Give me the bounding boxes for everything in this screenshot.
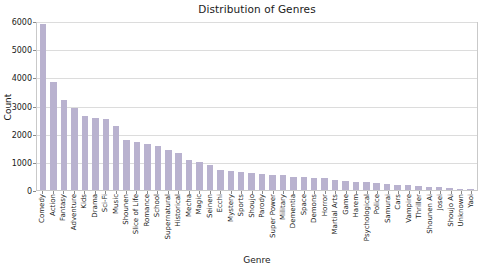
- bar: [426, 187, 432, 190]
- x-tick-slot: Music: [110, 191, 120, 253]
- bar: [353, 182, 359, 190]
- x-tick-label: Shoujo Ai: [447, 194, 454, 227]
- x-tick-label: Horror: [321, 194, 328, 216]
- bar: [134, 142, 140, 190]
- bar-slot: [319, 23, 329, 190]
- x-tick-slot: Comedy: [37, 191, 47, 253]
- x-tick-label: Historical: [175, 194, 182, 227]
- bar: [436, 187, 442, 190]
- x-tick-slot: Military: [278, 191, 288, 253]
- x-tick-label: Harem: [353, 194, 360, 217]
- bar: [165, 150, 171, 190]
- y-tick-label: 4000: [12, 74, 32, 83]
- x-tick-label: Shoujo: [248, 194, 255, 218]
- x-tick-slot: Horror: [320, 191, 330, 253]
- bar-slot: [351, 23, 361, 190]
- bar: [405, 185, 411, 190]
- x-tick-slot: Action: [47, 191, 57, 253]
- x-tick-group: ComedyActionFantasyAdventureKidsDramaSci…: [36, 191, 478, 253]
- bar-slot: [361, 23, 371, 190]
- x-tick-slot: School: [152, 191, 162, 253]
- bar-slot: [299, 23, 309, 190]
- x-tick-slot: Slice of Life: [131, 191, 141, 253]
- bar-slot: [246, 23, 256, 190]
- x-tick-slot: Vampire: [403, 191, 413, 253]
- bar-slot: [142, 23, 152, 190]
- bar: [259, 174, 265, 190]
- x-tick-label: Shounen Ai: [426, 194, 433, 234]
- x-tick-slot: Dementia: [288, 191, 298, 253]
- bar-slot: [90, 23, 100, 190]
- bar-slot: [309, 23, 319, 190]
- bar: [342, 181, 348, 190]
- x-tick-label: Space: [300, 194, 307, 215]
- bar-slot: [132, 23, 142, 190]
- x-tick-label: Thriller: [416, 194, 423, 219]
- bar-slot: [163, 23, 173, 190]
- bar: [457, 189, 463, 190]
- bar-slot: [372, 23, 382, 190]
- chart-title: Distribution of Genres: [36, 3, 478, 15]
- bar-slot: [111, 23, 121, 190]
- y-axis: Count 0100020003000400050006000: [0, 22, 36, 191]
- bar: [123, 140, 129, 190]
- x-tick-slot: Unknown: [456, 191, 466, 253]
- x-tick-slot: Supernatural: [163, 191, 173, 253]
- bar: [415, 186, 421, 190]
- x-tick-label: Seinen: [206, 194, 213, 218]
- bar-slot: [382, 23, 392, 190]
- bar-slot: [444, 23, 454, 190]
- bar: [103, 119, 109, 190]
- y-tick-label: 3000: [12, 102, 32, 111]
- x-tick-label: Cars: [395, 194, 402, 210]
- x-tick-label: Ecchi: [217, 194, 224, 213]
- bar: [363, 182, 369, 190]
- x-tick-label: Music: [112, 194, 119, 214]
- bar-slot: [38, 23, 48, 190]
- bar: [50, 82, 56, 190]
- x-tick-label: Magic: [196, 194, 203, 215]
- x-axis: ComedyActionFantasyAdventureKidsDramaSci…: [36, 191, 478, 253]
- bar: [301, 177, 307, 190]
- bar-slot: [215, 23, 225, 190]
- x-tick-label: Drama: [91, 194, 98, 218]
- bar-slot: [330, 23, 340, 190]
- x-tick-slot: Mystery: [225, 191, 235, 253]
- x-tick-slot: Shounen Ai: [424, 191, 434, 253]
- bar: [311, 178, 317, 190]
- x-tick-label: Shounen: [122, 194, 129, 225]
- x-tick-label: Mecha: [185, 194, 192, 217]
- x-tick-slot: Fantasy: [58, 191, 68, 253]
- bar: [144, 144, 150, 190]
- chart-figure: Distribution of Genres Count 01000200030…: [0, 0, 492, 274]
- bar-slot: [236, 23, 246, 190]
- bar-series: [37, 23, 477, 190]
- x-tick-slot: Seinen: [205, 191, 215, 253]
- bar-slot: [413, 23, 423, 190]
- y-tick-label: 2000: [12, 130, 32, 139]
- x-tick-slot: Historical: [173, 191, 183, 253]
- x-tick-slot: Drama: [89, 191, 99, 253]
- bar-slot: [101, 23, 111, 190]
- x-tick-label: Vampire: [405, 194, 412, 223]
- x-tick-label: Military: [280, 194, 287, 220]
- x-tick-slot: Psychological: [362, 191, 372, 253]
- x-tick-label: Sci-Fi: [102, 194, 109, 212]
- bar-slot: [403, 23, 413, 190]
- bar: [40, 24, 46, 190]
- bar-slot: [257, 23, 267, 190]
- bar: [290, 177, 296, 190]
- x-tick-label: School: [154, 194, 161, 217]
- bar: [332, 180, 338, 190]
- x-tick-slot: Cars: [393, 191, 403, 253]
- x-tick-label: Martial Arts: [332, 194, 339, 234]
- x-tick-label: Mystery: [227, 194, 234, 222]
- bar-slot: [173, 23, 183, 190]
- x-tick-slot: Shounen: [121, 191, 131, 253]
- bar-slot: [205, 23, 215, 190]
- bar: [186, 160, 192, 190]
- x-tick-slot: Game: [341, 191, 351, 253]
- bar: [280, 175, 286, 190]
- bar-slot: [465, 23, 475, 190]
- bar: [238, 172, 244, 190]
